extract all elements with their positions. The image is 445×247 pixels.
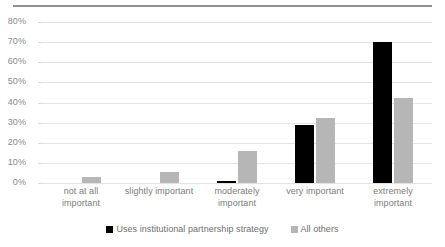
chart-legend: Uses institutional partnership strategy … [0, 224, 445, 234]
y-axis-tick-mark [38, 103, 42, 104]
y-axis-tick-label: 0% [0, 177, 26, 187]
chart-top-border [13, 5, 432, 7]
x-axis-category-label: moderately important [200, 186, 274, 209]
y-axis-tick-label: 20% [0, 137, 26, 147]
legend-swatch-gray-icon [291, 226, 298, 233]
plot-area: 0%10%20%30%40%50%60%70%80% [42, 22, 432, 183]
y-axis-tick-label: 70% [0, 36, 26, 46]
legend-label-series-a: Uses institutional partnership strategy [116, 224, 268, 234]
y-axis-tick-mark [38, 42, 42, 43]
gridline [42, 183, 432, 184]
gridline [42, 22, 432, 23]
bar-series-b [316, 118, 335, 183]
y-axis-tick-mark [38, 163, 42, 164]
x-axis-labels: not at all importantslightly importantmo… [42, 186, 432, 220]
y-axis-tick-label: 30% [0, 117, 26, 127]
y-axis-tick-mark [38, 183, 42, 184]
bar-series-a [373, 42, 392, 183]
y-axis-tick-label: 50% [0, 76, 26, 86]
x-axis-category-label: slightly important [122, 186, 196, 198]
bar-series-b [160, 172, 179, 183]
bar-chart: 0%10%20%30%40%50%60%70%80% not at all im… [0, 0, 445, 247]
y-axis-tick-mark [38, 62, 42, 63]
bar-series-b [82, 177, 101, 183]
y-axis-tick-mark [38, 123, 42, 124]
legend-label-series-b: All others [301, 224, 339, 234]
legend-entry-series-a: Uses institutional partnership strategy [106, 224, 268, 234]
bar-series-b [394, 98, 413, 183]
bar-series-a [217, 181, 236, 183]
y-axis-tick-mark [38, 82, 42, 83]
bar-series-a [295, 125, 314, 183]
y-axis-tick-label: 60% [0, 56, 26, 66]
y-axis-tick-label: 10% [0, 157, 26, 167]
y-axis-tick-mark [38, 143, 42, 144]
legend-swatch-black-icon [106, 226, 113, 233]
y-axis-tick-label: 40% [0, 97, 26, 107]
x-axis-category-label: extremely important [356, 186, 430, 209]
x-axis-category-label: very important [278, 186, 352, 198]
x-axis-category-label: not at all important [44, 186, 118, 209]
y-axis-tick-mark [38, 22, 42, 23]
y-axis-tick-label: 80% [0, 16, 26, 26]
legend-entry-series-b: All others [291, 224, 339, 234]
bar-series-b [238, 151, 257, 183]
